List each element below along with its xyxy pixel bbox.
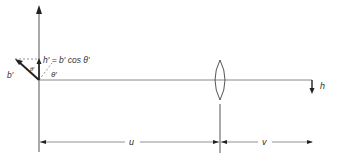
label-v: v: [262, 137, 267, 147]
label-b-prime: b′: [7, 70, 14, 80]
image-arrow: [310, 80, 315, 94]
label-theta-prime-lower: θ′: [51, 70, 57, 79]
lens: [215, 60, 225, 153]
label-theta-prime-upper: θ′: [30, 66, 35, 72]
label-h: h: [320, 81, 325, 91]
dimension-v: [221, 140, 313, 144]
label-u: u: [129, 137, 134, 147]
h-prime-arrow: [37, 58, 42, 80]
label-h-prime-equation: h′ = b′ cos θ′: [43, 55, 90, 65]
b-prime-arrow: [15, 59, 39, 80]
optics-diagram: h′ = b′ cos θ′ b′ θ′ θ′ h u v: [0, 0, 341, 159]
